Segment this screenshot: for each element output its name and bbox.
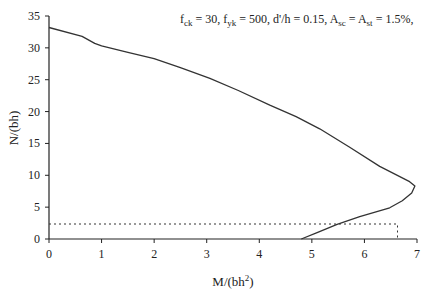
y-tick-label: 15 — [28, 136, 40, 150]
y-tick-label: 0 — [34, 232, 40, 246]
x-tick-label: 5 — [309, 247, 315, 261]
x-tick-label: 4 — [256, 247, 262, 261]
y-axis-title: N/(bh) — [6, 111, 21, 146]
y-tick-label: 20 — [28, 105, 40, 119]
y-tick-label: 10 — [28, 168, 40, 182]
axes: 0123456705101520253035 — [28, 9, 420, 261]
y-tick-label: 5 — [34, 200, 40, 214]
y-tick-label: 35 — [28, 9, 40, 23]
x-tick-label: 6 — [361, 247, 367, 261]
x-tick-label: 3 — [204, 247, 210, 261]
x-tick-label: 0 — [46, 247, 52, 261]
x-tick-label: 1 — [99, 247, 105, 261]
interaction-diagram-chart: 0123456705101520253035 fck = 30, fyk = 5… — [0, 0, 426, 301]
y-tick-label: 25 — [28, 73, 40, 87]
x-tick-label: 2 — [151, 247, 157, 261]
plot-series — [49, 28, 415, 240]
interaction-curve — [49, 28, 415, 240]
reference-dotted-line — [49, 224, 398, 239]
parameter-annotation: fck = 30, fyk = 500, d'/h = 0.15, Asc = … — [180, 12, 413, 28]
x-axis-title: M/(bh2) — [212, 273, 253, 289]
y-tick-label: 30 — [28, 41, 40, 55]
x-tick-label: 7 — [414, 247, 420, 261]
